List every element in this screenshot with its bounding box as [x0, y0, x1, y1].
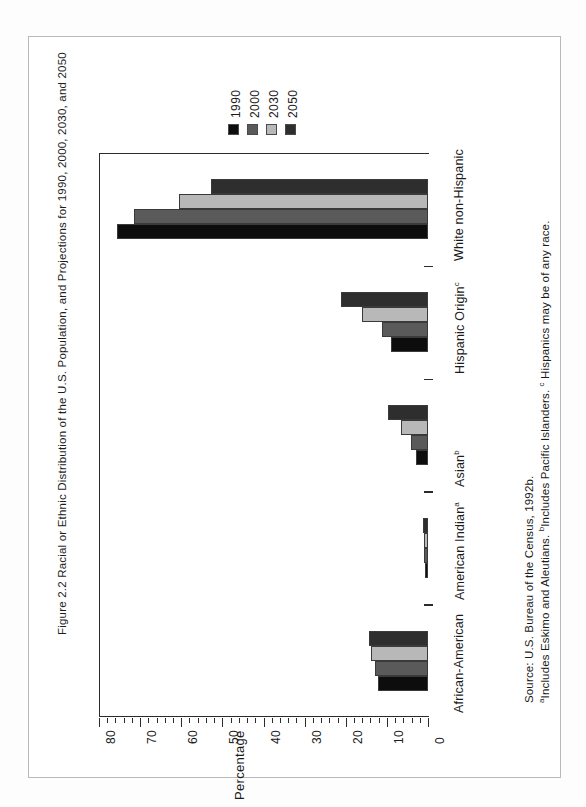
bar-2000-american-indian	[424, 548, 428, 563]
axis-tick-major	[264, 718, 265, 727]
bar-2050-african-american	[369, 631, 428, 646]
axis-tick-minor	[231, 718, 232, 723]
axis-tick-minor	[395, 718, 396, 723]
axis-tick-label: 10	[392, 730, 406, 744]
axis-tick-minor	[189, 718, 190, 723]
axis-tick-minor	[255, 718, 256, 723]
footnote-line: aIncludes Eskimo and Aleutians. bInclude…	[537, 220, 551, 703]
bar-2030-african-american	[371, 646, 428, 661]
axis-tick-minor	[329, 718, 330, 723]
axis-tick-minor	[280, 718, 281, 723]
bar-2000-asian	[411, 435, 428, 450]
axis-tick-major	[346, 718, 347, 727]
axis-tick-label: 60	[186, 730, 200, 744]
bar-2030-hispanic-origin	[362, 307, 428, 322]
category-tick	[424, 491, 433, 492]
axis-tick-minor	[132, 718, 133, 723]
source-note: Source: U.S. Bureau of the Census, 1992b…	[523, 476, 535, 703]
axis-tick-minor	[362, 718, 363, 723]
value-axis-ticks	[99, 718, 430, 727]
legend-swatch-1990	[228, 124, 239, 135]
axis-tick-minor	[148, 718, 149, 723]
category-label-african-american: African-American	[452, 614, 466, 713]
axis-tick-major	[222, 718, 223, 727]
footnote-b-text: Includes Pacific Islanders.	[539, 386, 551, 526]
legend-label-2030: 2030	[267, 90, 281, 118]
bar-2030-white-non-hispanic	[179, 194, 428, 209]
axis-tick-minor	[412, 718, 413, 723]
axis-tick-minor	[403, 718, 404, 723]
bar-1990-hispanic-origin	[391, 337, 428, 352]
legend-item-2050: 2050	[285, 124, 299, 135]
figure-page: Figure 2.2 Racial or Ethnic Distribution…	[0, 0, 586, 807]
axis-tick-major	[305, 718, 306, 727]
footnote-a-text: Includes Eskimo and Aleutians.	[539, 531, 551, 698]
legend-item-2000: 2000	[247, 124, 261, 135]
footnote-a-marker: a	[537, 698, 546, 703]
axis-tick-minor	[247, 718, 248, 723]
axis-tick-label: 30	[310, 730, 324, 744]
axis-tick-minor	[107, 718, 108, 723]
bar-2050-hispanic-origin	[341, 292, 428, 307]
category-label-american-indian: American Indiana	[452, 502, 467, 600]
axis-tick-minor	[165, 718, 166, 723]
bar-2030-american-indian	[424, 533, 428, 548]
axis-tick-major	[428, 718, 429, 727]
axis-tick-major	[181, 718, 182, 727]
axis-tick-minor	[272, 718, 273, 723]
axis-tick-minor	[214, 718, 215, 723]
axis-tick-minor	[198, 718, 199, 723]
legend-swatch-2050	[285, 124, 296, 135]
legend-label-2000: 2000	[248, 90, 262, 118]
bar-2000-hispanic-origin	[382, 322, 428, 337]
axis-tick-major	[387, 718, 388, 727]
axis-tick-minor	[296, 718, 297, 723]
bar-2050-white-non-hispanic	[211, 179, 428, 194]
legend-label-1990: 1990	[229, 90, 243, 118]
axis-tick-minor	[370, 718, 371, 723]
axis-tick-label: 0	[433, 737, 447, 744]
axis-tick-minor	[239, 718, 240, 723]
category-label-hispanic-origin: Hispanic Originc	[452, 282, 467, 374]
footnote-c-text: Hispanics may be of any race.	[539, 220, 551, 382]
axis-tick-minor	[173, 718, 174, 723]
category-label-asian: Asianb	[452, 450, 467, 487]
bar-1990-asian	[416, 450, 428, 465]
axis-tick-minor	[354, 718, 355, 723]
bar-2050-american-indian	[423, 518, 428, 533]
category-tick	[424, 604, 433, 605]
legend-label-2050: 2050	[286, 90, 300, 118]
legend-item-1990: 1990	[228, 124, 242, 135]
axis-tick-label: 40	[269, 730, 283, 744]
footnote-b-marker: b	[537, 527, 546, 532]
axis-tick-major	[140, 718, 141, 727]
axis-tick-minor	[157, 718, 158, 723]
bar-1990-white-non-hispanic	[117, 224, 428, 239]
axis-tick-minor	[313, 718, 314, 723]
axis-tick-label: 70	[145, 730, 159, 744]
axis-tick-label: 80	[104, 730, 118, 744]
axis-tick-minor	[124, 718, 125, 723]
bar-1990-african-american	[378, 676, 428, 691]
axis-title-percentage: Percentage	[232, 731, 247, 801]
legend-item-2030: 2030	[266, 124, 280, 135]
axis-tick-minor	[379, 718, 380, 723]
category-label-white-non-hispanic: White non-Hispanic	[452, 149, 466, 261]
axis-tick-minor	[206, 718, 207, 723]
category-tick	[424, 379, 433, 380]
axis-tick-minor	[288, 718, 289, 723]
bar-2000-african-american	[375, 661, 428, 676]
bar-1990-american-indian	[425, 563, 428, 578]
bar-2050-asian	[388, 405, 428, 420]
figure-caption: Figure 2.2 Racial or Ethnic Distribution…	[56, 52, 68, 635]
axis-tick-minor	[115, 718, 116, 723]
footnote-c-marker: c	[537, 382, 546, 386]
bar-2000-white-non-hispanic	[134, 209, 428, 224]
axis-tick-minor	[321, 718, 322, 723]
axis-tick-minor	[338, 718, 339, 723]
legend-swatch-2030	[266, 124, 277, 135]
category-tick	[424, 266, 433, 267]
axis-tick-minor	[420, 718, 421, 723]
axis-tick-major	[99, 718, 100, 727]
axis-tick-label: 20	[351, 730, 365, 744]
